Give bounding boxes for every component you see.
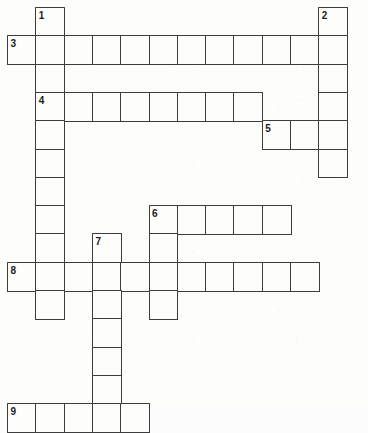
crossword-cell[interactable] (92, 35, 122, 65)
crossword-cell[interactable] (177, 92, 207, 122)
crossword-cell[interactable] (92, 403, 122, 433)
crossword-cell[interactable] (92, 262, 122, 292)
crossword-cell[interactable] (92, 290, 122, 320)
crossword-cell[interactable] (35, 233, 65, 263)
crossword-cell[interactable] (64, 35, 94, 65)
clue-number-4: 4 (39, 96, 44, 106)
crossword-cell[interactable] (205, 92, 235, 122)
clue-number-3: 3 (11, 39, 16, 49)
crossword-cell[interactable] (233, 92, 263, 122)
crossword-cell[interactable] (149, 35, 179, 65)
crossword-cell[interactable] (35, 120, 65, 150)
crossword-cell[interactable] (35, 64, 65, 94)
clue-number-9: 9 (11, 407, 16, 417)
crossword-cell[interactable] (35, 403, 65, 433)
crossword-cell[interactable] (64, 403, 94, 433)
crossword-cell[interactable] (233, 35, 263, 65)
crossword-cell[interactable] (318, 149, 348, 179)
crossword-cell[interactable] (120, 262, 150, 292)
crossword-cell[interactable] (92, 347, 122, 377)
crossword-cell[interactable] (318, 120, 348, 150)
crossword-cell[interactable] (177, 205, 207, 235)
crossword-cell[interactable] (149, 290, 179, 320)
crossword-cell[interactable] (92, 375, 122, 405)
clue-number-5: 5 (265, 124, 270, 134)
clue-number-8: 8 (11, 266, 16, 276)
crossword-cell[interactable] (120, 35, 150, 65)
crossword-cell[interactable] (262, 205, 292, 235)
crossword-cell[interactable] (262, 262, 292, 292)
crossword-cell[interactable] (64, 92, 94, 122)
crossword-cell[interactable] (35, 290, 65, 320)
crossword-cell[interactable] (318, 92, 348, 122)
crossword-cell[interactable] (205, 35, 235, 65)
crossword-cell[interactable] (120, 92, 150, 122)
crossword-cell[interactable] (35, 205, 65, 235)
crossword-cell[interactable] (290, 262, 320, 292)
crossword-cell[interactable] (149, 233, 179, 263)
crossword-cell[interactable] (205, 262, 235, 292)
clue-number-2: 2 (322, 11, 327, 21)
crossword-cell[interactable] (35, 177, 65, 207)
crossword-cell[interactable] (233, 205, 263, 235)
crossword-cell[interactable] (120, 403, 150, 433)
crossword-cell[interactable] (233, 262, 263, 292)
crossword-cell[interactable] (92, 318, 122, 348)
crossword-cell[interactable] (262, 35, 292, 65)
crossword-cell[interactable] (64, 262, 94, 292)
crossword-cell[interactable] (35, 262, 65, 292)
crossword-cell[interactable] (35, 149, 65, 179)
clue-number-7: 7 (95, 237, 100, 247)
crossword-cell[interactable] (149, 262, 179, 292)
crossword-cell[interactable] (177, 35, 207, 65)
crossword-cell[interactable] (290, 35, 320, 65)
crossword-cell[interactable] (318, 35, 348, 65)
clue-number-1: 1 (39, 11, 44, 21)
crossword-cell[interactable] (35, 35, 65, 65)
crossword-cell[interactable] (318, 64, 348, 94)
crossword-cell[interactable] (177, 262, 207, 292)
crossword-cell[interactable] (149, 92, 179, 122)
crossword-cell[interactable] (92, 92, 122, 122)
crossword-cell[interactable] (205, 205, 235, 235)
clue-number-6: 6 (152, 209, 157, 219)
crossword-cell[interactable] (290, 120, 320, 150)
